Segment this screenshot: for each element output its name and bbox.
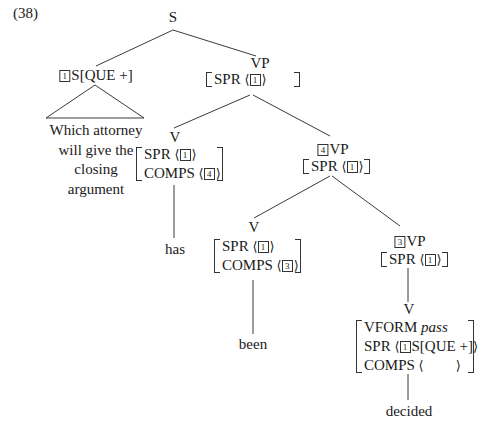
yield-line: argument	[46, 180, 146, 200]
avm-row-comps: COMPS ⟨4⟩	[144, 164, 215, 183]
subject-yield: Which attorney will give the closing arg…	[46, 121, 146, 199]
tag-box: 1	[347, 161, 358, 173]
node-vp4: 4VP	[317, 140, 348, 158]
avm-row-comps: COMPS ⟨3⟩	[222, 256, 293, 275]
avm-row-spr: SPR ⟨1⟩	[311, 157, 362, 176]
avm-v-been: SPR ⟨1⟩ COMPS ⟨3⟩	[214, 237, 301, 275]
node-v-has: V	[170, 128, 181, 146]
subject-triangle	[46, 85, 144, 118]
branch-s-subject	[96, 30, 173, 66]
word-has: has	[165, 240, 185, 258]
avm-vp-top: SPR ⟨1⟩	[206, 70, 300, 89]
yield-line: closing	[46, 160, 146, 180]
node-vp3: 3VP	[394, 232, 425, 250]
tag-box: 4	[317, 144, 328, 156]
tag-box: 1	[425, 254, 436, 266]
branch-vp4-vp3	[332, 176, 400, 226]
tag-box: 1	[59, 70, 70, 82]
yield-line: will give the	[46, 141, 146, 161]
subject-label: S[QUE +]	[71, 67, 132, 83]
word-been: been	[239, 335, 267, 353]
avm-vp4: SPR ⟨1⟩	[303, 157, 370, 176]
avm-v-has: SPR ⟨1⟩ COMPS ⟨4⟩	[136, 145, 223, 183]
branch-vp-vp4	[253, 95, 330, 136]
tag-box: 1	[258, 241, 269, 253]
avm-row-spr: SPR ⟨1⟩	[214, 70, 292, 89]
branch-s-vp	[173, 30, 256, 56]
avm-row-spr: SPR ⟨1S[QUE +]⟩	[364, 337, 466, 356]
yield-line: Which attorney	[46, 121, 146, 141]
tag-box: 1	[250, 74, 261, 86]
branch-vp-v-has	[174, 95, 250, 128]
avm-row-spr: SPR ⟨1⟩	[144, 145, 215, 164]
avm-row-spr: SPR ⟨1⟩	[389, 250, 440, 269]
node-s-root: S	[169, 8, 177, 26]
node-subject: 1S[QUE +]	[59, 66, 132, 84]
branch-vp4-v-been	[254, 176, 330, 218]
node-v-decided: V	[404, 300, 415, 318]
avm-row-spr: SPR ⟨1⟩	[222, 237, 293, 256]
tag-box: 1	[180, 149, 191, 161]
tag-box: 4	[204, 168, 215, 180]
word-decided: decided	[386, 402, 433, 420]
tag-box: 1	[400, 341, 411, 353]
node-v-been: V	[249, 218, 260, 236]
avm-row-comps: COMPS ⟨⟩	[364, 356, 466, 375]
tag-box: 3	[394, 236, 405, 248]
avm-v-decided: VFORM pass SPR ⟨1S[QUE +]⟩ COMPS ⟨⟩	[356, 318, 474, 375]
avm-vp3: SPR ⟨1⟩	[381, 250, 448, 269]
example-number: (38)	[13, 4, 38, 22]
avm-row-vform: VFORM pass	[364, 318, 466, 337]
tag-box: 3	[282, 260, 293, 272]
